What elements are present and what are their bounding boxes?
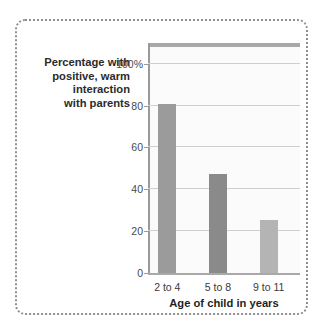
y-tick-label-20: 20 bbox=[131, 225, 143, 237]
y-tick-mark-40 bbox=[144, 189, 148, 190]
y-axis-title-line-2: positive, warm bbox=[26, 70, 130, 84]
x-tick-label-9-to-11: 9 to 11 bbox=[253, 281, 284, 293]
y-axis-title-line-3: interaction bbox=[26, 83, 130, 97]
y-tick-label-100: 100% bbox=[116, 58, 143, 70]
y-axis-spine bbox=[148, 43, 150, 275]
x-tick-label-2-to-4: 2 to 4 bbox=[154, 281, 180, 293]
plot-area: 020406080100% 2 to 45 to 89 to 11 bbox=[148, 43, 300, 275]
y-tick-mark-80 bbox=[144, 106, 148, 107]
x-axis-spine bbox=[148, 273, 300, 276]
y-tick-mark-0 bbox=[144, 273, 148, 274]
bar-2-to-4[interactable] bbox=[158, 104, 176, 273]
plot-top-band bbox=[148, 43, 300, 47]
y-tick-mark-60 bbox=[144, 147, 148, 148]
y-tick-mark-20 bbox=[144, 231, 148, 232]
y-axis-title: Percentage with positive, warm interacti… bbox=[26, 56, 130, 110]
y-tick-label-80: 80 bbox=[131, 100, 143, 112]
chart-figure: Percentage with positive, warm interacti… bbox=[0, 0, 327, 336]
y-axis-title-line-4: with parents bbox=[26, 97, 130, 111]
x-axis-title: Age of child in years bbox=[148, 297, 300, 309]
gridline-100 bbox=[148, 63, 300, 64]
y-tick-label-40: 40 bbox=[131, 183, 143, 195]
y-axis-title-line-1: Percentage with bbox=[26, 56, 130, 70]
bar-5-to-8[interactable] bbox=[209, 174, 227, 272]
y-tick-mark-100 bbox=[144, 64, 148, 65]
y-tick-label-60: 60 bbox=[131, 141, 143, 153]
y-tick-label-0: 0 bbox=[137, 267, 143, 279]
bar-9-to-11[interactable] bbox=[260, 220, 278, 272]
x-tick-label-5-to-8: 5 to 8 bbox=[205, 281, 231, 293]
